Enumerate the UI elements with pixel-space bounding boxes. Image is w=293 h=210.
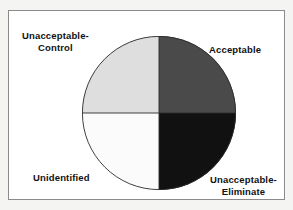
pie-label-unacceptable-control-line1: Unacceptable-	[22, 30, 89, 42]
pie-label-unacceptable-control-line2: Control	[22, 42, 89, 54]
pie-label-acceptable: Acceptable	[209, 44, 261, 56]
figure-frame: Unacceptable- Control Acceptable Unident…	[8, 10, 285, 200]
pie-label-unacceptable-eliminate-line2: Eliminate	[210, 186, 277, 198]
pie-label-unidentified: Unidentified	[33, 172, 90, 184]
pie-label-unacceptable-eliminate-line1: Unacceptable-	[210, 174, 277, 186]
pie-label-acceptable-line1: Acceptable	[209, 44, 261, 56]
pie-label-unidentified-line1: Unidentified	[33, 172, 90, 184]
pie-slice-unacceptable-control	[82, 36, 159, 113]
pie-chart	[82, 36, 236, 190]
figure-root: Unacceptable- Control Acceptable Unident…	[0, 0, 293, 210]
pie-label-unacceptable-eliminate: Unacceptable- Eliminate	[210, 174, 277, 198]
pie-label-unacceptable-control: Unacceptable- Control	[22, 30, 89, 54]
pie-slice-unidentified	[82, 113, 159, 190]
